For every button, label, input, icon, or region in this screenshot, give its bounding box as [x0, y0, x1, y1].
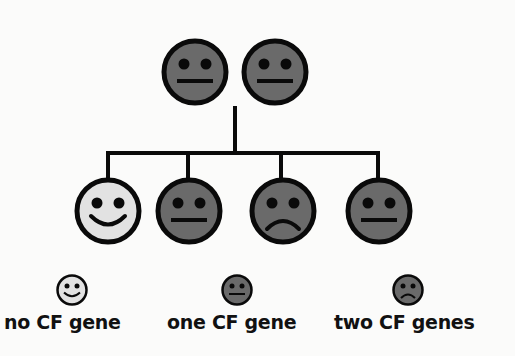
child-1-smile-face-icon: [77, 180, 139, 242]
parent-1-neutral-face-icon: [164, 41, 226, 103]
legend-label-one-cf-gene: one CF gene: [167, 311, 296, 333]
legend-neutral-face-icon: [223, 276, 252, 305]
legend-frown-face-icon: [394, 276, 423, 305]
pedigree-diagram: [0, 0, 515, 356]
legend-label-two-cf-genes: two CF genes: [334, 311, 474, 333]
parent-2-neutral-face-icon: [244, 41, 306, 103]
child-2-neutral-face-icon: [158, 180, 220, 242]
connector-lines: [106, 106, 380, 178]
child-3-frown-face-icon: [252, 180, 314, 242]
child-4-neutral-face-icon: [348, 180, 410, 242]
legend-smile-face-icon: [58, 276, 87, 305]
legend-label-no-cf-gene: no CF gene: [4, 311, 121, 333]
